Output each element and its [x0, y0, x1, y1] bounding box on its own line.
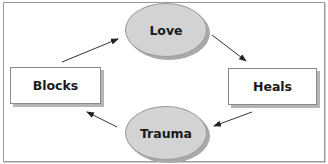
node-trauma: Trauma: [125, 106, 207, 160]
node-blocks: Blocks: [10, 67, 101, 104]
arrow-trauma-to-blocks: [87, 112, 117, 127]
node-blocks-label: Blocks: [33, 78, 79, 93]
node-love: Love: [125, 3, 207, 57]
arrow-blocks-to-love: [62, 39, 118, 62]
node-trauma-label: Trauma: [140, 126, 192, 141]
node-heals: Heals: [228, 68, 317, 105]
node-love-label: Love: [149, 23, 182, 38]
node-heals-label: Heals: [253, 79, 292, 94]
arrow-heals-to-trauma: [214, 112, 252, 126]
arrow-love-to-heals: [212, 35, 246, 61]
